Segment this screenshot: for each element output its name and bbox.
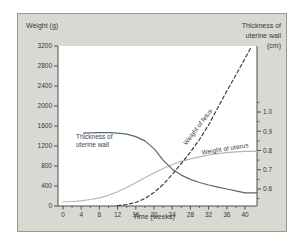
svg-text:0.8: 0.8 <box>263 147 272 154</box>
svg-text:0.9: 0.9 <box>263 128 272 135</box>
chart-figure: 0400800120016002000240028003200048121620… <box>17 13 287 232</box>
svg-text:2400: 2400 <box>38 82 53 89</box>
svg-text:36: 36 <box>223 211 231 218</box>
svg-text:3200: 3200 <box>38 42 53 49</box>
thickness-curve-label-line1: Thickness of <box>76 133 113 141</box>
svg-text:1600: 1600 <box>38 122 53 129</box>
svg-text:2800: 2800 <box>38 62 53 69</box>
x-axis-title: Time (weeks) <box>96 213 212 220</box>
svg-text:4: 4 <box>79 211 83 218</box>
right-axis-title: Thickness of uterine wall (cm) <box>242 21 281 51</box>
right-axis-title-line1: Thickness of <box>242 21 281 31</box>
svg-text:0: 0 <box>48 202 52 209</box>
svg-text:1200: 1200 <box>38 142 53 149</box>
right-axis-title-line2: uterine wall <box>242 31 281 41</box>
svg-text:400: 400 <box>41 182 52 189</box>
svg-text:40: 40 <box>241 211 249 218</box>
svg-text:0.7: 0.7 <box>263 166 272 173</box>
svg-text:0: 0 <box>61 211 65 218</box>
svg-text:1.0: 1.0 <box>263 108 272 115</box>
left-axis-title: Weight (g) <box>26 21 58 30</box>
svg-text:800: 800 <box>41 162 52 169</box>
svg-text:0.6: 0.6 <box>263 185 272 192</box>
right-axis-title-line3: (cm) <box>242 41 281 51</box>
svg-text:2000: 2000 <box>38 102 53 109</box>
thickness-curve-label-line2: uterine wall <box>76 141 113 149</box>
thickness-curve-label: Thickness of uterine wall <box>76 133 113 149</box>
